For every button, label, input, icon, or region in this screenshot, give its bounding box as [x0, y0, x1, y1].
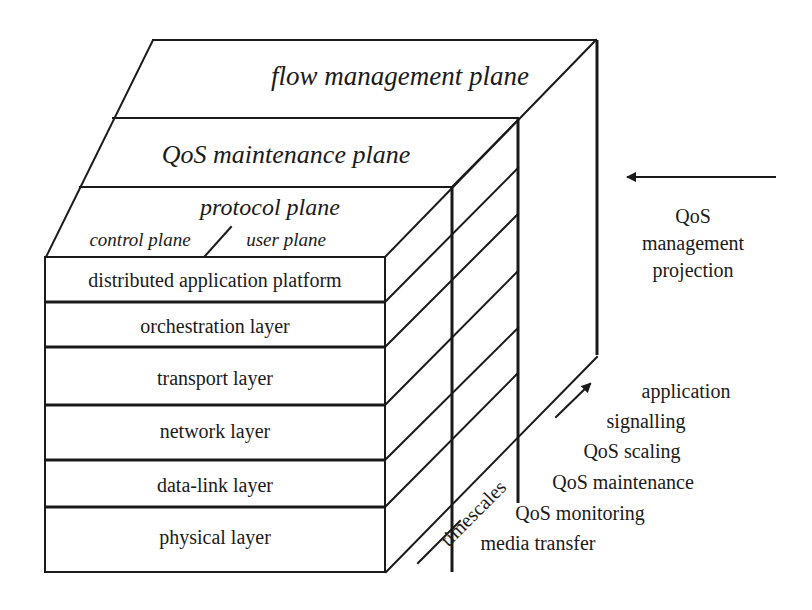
timescale-qos-scaling: QoS scaling [583, 440, 680, 463]
projection-label-line2: management [642, 232, 745, 255]
timescale-qos-maintenance: QoS maintenance [552, 471, 694, 493]
layer-network: network layer [160, 420, 271, 443]
qos-maintenance-plane [113, 118, 518, 503]
timescale-signalling: signalling [607, 410, 686, 433]
layer-transport: transport layer [157, 367, 273, 390]
qos-maintenance-plane-label: QoS maintenance plane [162, 140, 410, 169]
layer-physical: physical layer [159, 526, 271, 549]
timescale-application: application [642, 380, 731, 403]
layer-data-link: data-link layer [157, 474, 273, 497]
user-plane-label: user plane [246, 229, 326, 250]
qos-architecture-cube-diagram: flow management plane QoS maintenance pl… [0, 0, 812, 610]
projection-label-line3: projection [652, 259, 733, 282]
layer-distributed-application-platform: distributed application platform [88, 269, 342, 292]
flow-management-plane-label: flow management plane [271, 61, 529, 91]
projection-label-line1: QoS [675, 205, 711, 227]
timescales-arrow-icon [556, 384, 590, 417]
control-plane-label: control plane [89, 229, 190, 250]
layer-orchestration: orchestration layer [140, 315, 290, 338]
timescale-media-transfer: media transfer [481, 532, 596, 554]
protocol-plane-label: protocol plane [198, 194, 340, 220]
front-face [45, 257, 385, 572]
timescale-qos-monitoring: QoS monitoring [515, 502, 644, 525]
